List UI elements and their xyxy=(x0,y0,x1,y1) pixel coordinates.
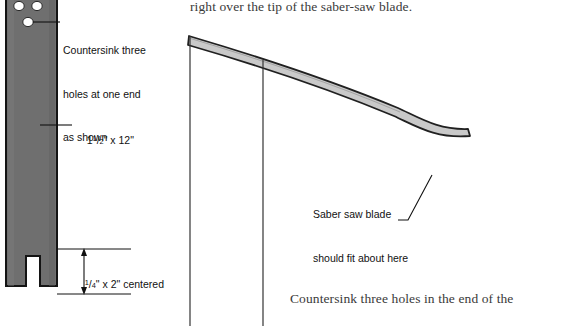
slot-times: x xyxy=(100,278,111,290)
countersink-hole-1 xyxy=(14,1,24,10)
polycarbonate-strip xyxy=(188,36,470,136)
slot-length: 2" xyxy=(111,278,121,290)
countersink-hole-3 xyxy=(23,17,33,26)
callout-countersink-line-1: Countersink three xyxy=(63,43,146,58)
board-shadow xyxy=(49,0,55,286)
width-times: x xyxy=(107,134,118,146)
slot-suffix: centered xyxy=(120,278,164,290)
width-length: 12" xyxy=(119,134,134,146)
bottom-paragraph: Countersink three holes in the end of th… xyxy=(290,258,538,326)
board-highlight xyxy=(8,0,14,286)
callout-width-dimension: 11/2" x 12" xyxy=(75,118,134,162)
bottom-paragraph-line-1: Countersink three holes in the end of th… xyxy=(290,291,538,307)
top-sentence-text: right over the tip of the saber-saw blad… xyxy=(190,0,412,15)
callout-blade-line-1: Saber saw blade xyxy=(313,207,408,222)
illustration-canvas: right over the tip of the saber-saw blad… xyxy=(0,0,574,326)
callout-slot-dimension: 1/4" x 2" centered xyxy=(73,262,164,306)
hold-down-support-board xyxy=(6,0,57,286)
countersink-hole-2 xyxy=(32,1,42,10)
callout-countersink-line-2: holes at one end xyxy=(63,87,146,102)
